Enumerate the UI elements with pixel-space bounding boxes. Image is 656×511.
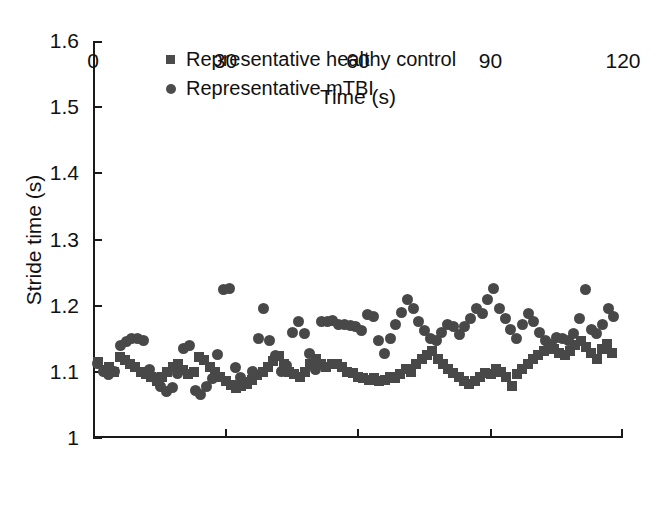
y-axis-tick (93, 305, 102, 307)
legend-square-marker-icon (166, 55, 186, 64)
x-tick-label: 120 (605, 49, 640, 73)
legend-circle-marker-icon (166, 84, 186, 94)
data-point-mtbi (517, 319, 528, 330)
data-point-mtbi (299, 328, 310, 339)
data-point-mtbi (597, 319, 608, 330)
legend-item-mtbi: Representative mTBI (166, 74, 456, 103)
data-point-mtbi (408, 303, 419, 314)
y-axis-tick (93, 172, 102, 174)
legend-label-mtbi: Representative mTBI (186, 77, 374, 100)
data-point-mtbi (264, 335, 275, 346)
data-point-mtbi (253, 333, 264, 344)
legend-item-healthy-control: Representative healthy control (166, 45, 456, 74)
data-point-mtbi (482, 294, 493, 305)
data-point-mtbi (207, 373, 218, 384)
x-axis-tick (357, 429, 359, 438)
data-point-mtbi (258, 303, 269, 314)
y-tick-label: 1.3 (50, 228, 79, 252)
y-tick-label: 1.1 (50, 360, 79, 384)
legend: Representative healthy control Represent… (166, 45, 456, 103)
data-point-mtbi (488, 283, 499, 294)
data-point-mtbi (172, 368, 183, 379)
data-point-healthy-control (607, 348, 617, 358)
data-point-healthy-control (189, 367, 199, 377)
x-axis-right-cap-tick (621, 429, 623, 438)
data-point-healthy-control (507, 381, 517, 391)
data-point-mtbi (310, 364, 321, 375)
y-axis-top-cap-tick (93, 41, 102, 43)
legend-label-healthy-control: Representative healthy control (186, 48, 456, 71)
data-point-mtbi (511, 333, 522, 344)
x-axis-tick (490, 429, 492, 438)
y-tick-label: 1.2 (50, 294, 79, 318)
x-axis-tick (225, 429, 227, 438)
y-tick-label: 1.4 (50, 161, 79, 185)
data-point-mtbi (379, 348, 390, 359)
y-tick-label: 1.5 (50, 95, 79, 119)
y-axis-title: Stride time (s) (22, 174, 46, 305)
stride-time-scatter-figure: Stride time (s) 11.11.21.31.41.51.6 0306… (0, 0, 656, 511)
y-axis-tick (93, 239, 102, 241)
data-point-mtbi (580, 284, 591, 295)
data-point-mtbi (396, 307, 407, 318)
data-point-mtbi (574, 313, 585, 324)
data-point-mtbi (608, 311, 619, 322)
data-point-mtbi (477, 308, 488, 319)
y-tick-label: 1 (67, 426, 79, 450)
data-point-mtbi (368, 311, 379, 322)
data-point-healthy-control (592, 354, 602, 364)
y-tick-label: 1.6 (50, 29, 79, 53)
data-point-mtbi (224, 283, 235, 294)
data-point-mtbi (212, 349, 223, 360)
data-point-mtbi (138, 335, 149, 346)
y-axis-tick (93, 437, 102, 439)
data-point-mtbi (528, 316, 539, 327)
data-point-mtbi (167, 382, 178, 393)
data-point-mtbi (500, 313, 511, 324)
x-tick-label: 0 (87, 49, 99, 73)
x-tick-label: 90 (479, 49, 502, 73)
data-point-mtbi (385, 333, 396, 344)
data-point-mtbi (293, 316, 304, 327)
data-point-mtbi (356, 325, 367, 336)
data-point-mtbi (373, 335, 384, 346)
data-point-mtbi (494, 303, 505, 314)
data-point-mtbi (390, 319, 401, 330)
data-point-mtbi (287, 327, 298, 338)
data-point-mtbi (465, 313, 476, 324)
data-point-mtbi (184, 340, 195, 351)
